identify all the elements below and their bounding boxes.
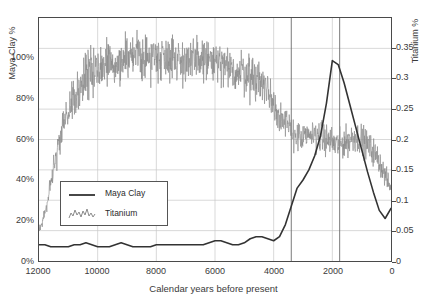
y-tick-left: 0% <box>0 256 34 266</box>
y-tick-right: 0.05 <box>396 225 427 235</box>
x-tick: 10000 <box>67 266 127 276</box>
plot-area: Maya Clay Titanium <box>38 17 392 262</box>
y-tick-right: 0.2 <box>396 134 427 144</box>
y-tick-right: 0.1 <box>396 195 427 205</box>
legend-label-titanium: Titanium <box>105 208 137 218</box>
legend-item-titanium: Titanium <box>61 206 169 224</box>
y-tick-mark-right <box>392 231 396 232</box>
x-tick: 4000 <box>244 266 304 276</box>
y-tick-left: 60% <box>0 134 34 144</box>
x-tick: 6000 <box>185 266 245 276</box>
y-tick-right: 0.15 <box>396 164 427 174</box>
y-tick-right: 0.25 <box>396 103 427 113</box>
y-tick-right: 0 <box>396 256 427 266</box>
y-tick-left: 20% <box>0 215 34 225</box>
x-axis-label: Calendar years before present <box>0 283 427 294</box>
y-tick-mark-right <box>392 170 396 171</box>
x-tick: 8000 <box>126 266 186 276</box>
x-tick: 0 <box>362 266 422 276</box>
y-tick-left: 80% <box>0 93 34 103</box>
legend-item-maya-clay: Maya Clay <box>61 186 169 204</box>
legend-swatch-noisy-line <box>67 207 97 221</box>
y-tick-mark-right <box>392 109 396 110</box>
y-tick-right: 0.3 <box>396 72 427 82</box>
x-tick: 12000 <box>8 266 68 276</box>
y-tick-mark-right <box>392 48 396 49</box>
y-tick-left: 100% <box>0 52 34 62</box>
y-tick-right: 0.35 <box>396 42 427 52</box>
y-tick-mark-right <box>392 201 396 202</box>
x-tick: 2000 <box>303 266 363 276</box>
legend-swatch-solid-line <box>67 188 97 202</box>
y-tick-mark-right <box>392 262 396 263</box>
chart-figure: Maya Clay % Titanium % Calendar years be… <box>0 0 427 305</box>
legend-label-maya-clay: Maya Clay <box>105 188 145 198</box>
y-tick-mark-right <box>392 78 396 79</box>
y-tick-left: 40% <box>0 174 34 184</box>
legend: Maya Clay Titanium <box>60 181 168 226</box>
y-tick-mark-right <box>392 140 396 141</box>
